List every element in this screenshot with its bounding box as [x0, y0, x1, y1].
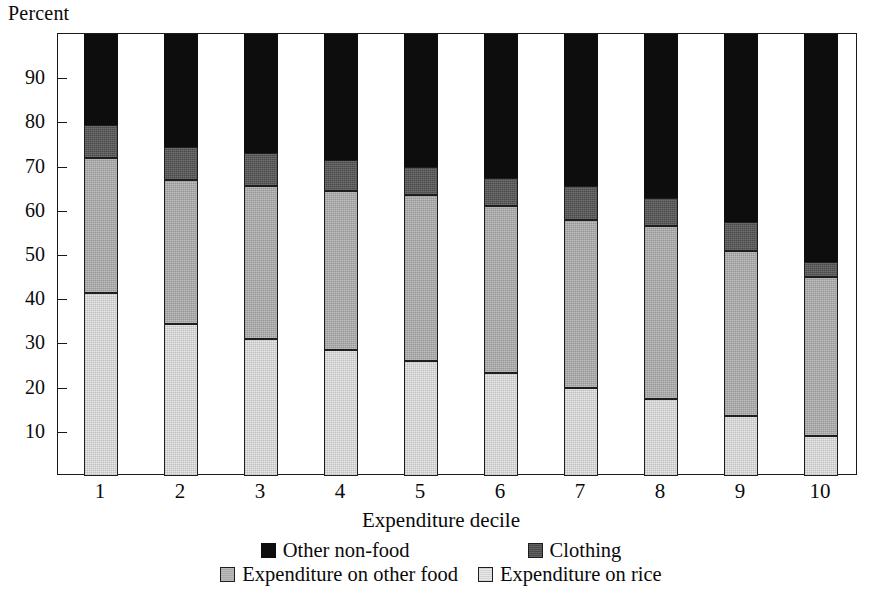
bar-segment-clothing — [644, 198, 678, 227]
legend-label: Expenditure on rice — [500, 562, 662, 586]
bar-column — [644, 34, 678, 474]
y-axis-title: Percent — [8, 2, 69, 25]
bar-segment-other-non-food — [804, 34, 838, 262]
bar-segment-rice — [804, 436, 838, 476]
legend-item: Clothing — [528, 538, 622, 562]
bar-segment-other-food — [164, 180, 198, 324]
bar-segment-rice — [244, 339, 278, 476]
legend-label: Other non-food — [283, 538, 410, 562]
bar-segment-clothing — [164, 147, 198, 180]
x-tick-label: 5 — [415, 481, 426, 502]
bar-segment-clothing — [564, 186, 598, 219]
bar-segment-other-food — [564, 220, 598, 388]
bar-segment-other-non-food — [164, 34, 198, 147]
bar-segment-clothing — [244, 153, 278, 186]
x-tick-label: 6 — [495, 481, 506, 502]
bar-segment-rice — [164, 324, 198, 476]
bar-segment-other-non-food — [244, 34, 278, 153]
bar-segment-rice — [564, 388, 598, 476]
x-tick-label: 9 — [735, 481, 746, 502]
legend-item: Expenditure on other food — [220, 562, 458, 586]
x-tick-label: 4 — [335, 481, 346, 502]
y-tick-mark — [58, 299, 67, 300]
x-tick-label: 1 — [95, 481, 106, 502]
bar-segment-other-non-food — [564, 34, 598, 186]
bar-column — [404, 34, 438, 474]
y-tick-label: 60 — [25, 200, 45, 220]
legend-swatch-icon — [478, 567, 493, 582]
bar-column — [484, 34, 518, 474]
bar-column — [804, 34, 838, 474]
bar-segment-other-non-food — [404, 34, 438, 167]
x-tick-label: 7 — [575, 481, 586, 502]
x-tick-label: 3 — [255, 481, 266, 502]
bar-column — [164, 34, 198, 474]
y-tick-label: 50 — [25, 244, 45, 264]
legend-swatch-icon — [528, 543, 543, 558]
plot-area — [57, 33, 857, 475]
legend-item: Expenditure on rice — [478, 562, 662, 586]
chart-figure: Percent 102030405060708090 12345678910 E… — [0, 0, 882, 614]
y-tick-mark — [58, 388, 67, 389]
y-tick-label: 90 — [25, 67, 45, 87]
y-tick-label: 70 — [25, 156, 45, 176]
legend-row: Expenditure on other foodExpenditure on … — [0, 562, 882, 586]
bar-segment-rice — [324, 350, 358, 476]
legend-row: Other non-foodClothing — [0, 538, 882, 562]
y-tick-mark — [58, 255, 67, 256]
bar-segment-other-non-food — [484, 34, 518, 178]
legend-swatch-icon — [261, 543, 276, 558]
y-tick-label: 30 — [25, 332, 45, 352]
bar-segment-other-non-food — [84, 34, 118, 125]
bar-segment-clothing — [324, 160, 358, 191]
y-tick-label: 40 — [25, 288, 45, 308]
bar-segment-other-food — [484, 206, 518, 373]
bar-segment-other-non-food — [324, 34, 358, 160]
bar-segment-other-food — [644, 226, 678, 398]
x-tick-label: 8 — [655, 481, 666, 502]
y-tick-label: 80 — [25, 111, 45, 131]
bar-segment-rice — [644, 399, 678, 476]
bar-segment-clothing — [804, 262, 838, 277]
bar-segment-other-food — [404, 195, 438, 361]
y-tick-label: 20 — [25, 377, 45, 397]
y-axis-tick-labels: 102030405060708090 — [0, 33, 49, 475]
plot-inner — [58, 34, 856, 474]
bar-segment-clothing — [484, 178, 518, 207]
y-tick-mark — [58, 343, 67, 344]
bar-segment-other-food — [324, 191, 358, 350]
bar-segment-other-non-food — [644, 34, 678, 198]
bar-segment-rice — [404, 361, 438, 476]
bar-segment-other-food — [84, 158, 118, 293]
bar-column — [724, 34, 758, 474]
legend-label: Expenditure on other food — [242, 562, 458, 586]
y-tick-mark — [58, 167, 67, 168]
y-tick-label: 10 — [25, 421, 45, 441]
y-tick-mark — [58, 211, 67, 212]
x-axis-title: Expenditure decile — [0, 508, 882, 533]
bar-segment-clothing — [404, 167, 438, 196]
legend-label: Clothing — [550, 538, 622, 562]
legend-swatch-icon — [220, 567, 235, 582]
bar-column — [244, 34, 278, 474]
bar-column — [324, 34, 358, 474]
bar-column — [564, 34, 598, 474]
bar-segment-other-food — [724, 251, 758, 417]
bar-segment-other-food — [244, 186, 278, 338]
bar-segment-rice — [484, 373, 518, 476]
bar-segment-clothing — [724, 222, 758, 251]
x-tick-label: 10 — [810, 481, 831, 502]
y-tick-mark — [58, 78, 67, 79]
bar-column — [84, 34, 118, 474]
bar-segment-clothing — [84, 125, 118, 158]
chart-legend: Other non-foodClothing Expenditure on ot… — [0, 538, 882, 586]
x-tick-label: 2 — [175, 481, 186, 502]
bar-segment-rice — [724, 416, 758, 476]
bar-segment-other-non-food — [724, 34, 758, 222]
legend-item: Other non-food — [261, 538, 410, 562]
bar-segment-other-food — [804, 277, 838, 436]
bar-segment-rice — [84, 293, 118, 476]
y-tick-mark — [58, 122, 67, 123]
y-tick-mark — [58, 432, 67, 433]
